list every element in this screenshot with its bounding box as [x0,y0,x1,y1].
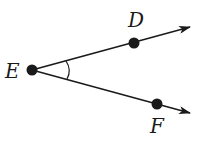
angle-diagram: E D F [0,0,209,145]
ray-ef [32,70,190,113]
label-e: E [4,59,20,83]
ray-ed [32,27,190,70]
diagram-canvas: E D F [0,0,209,145]
label-d: D [127,8,144,32]
angle-arc-marker [66,61,69,79]
label-f: F [149,114,165,138]
point-e [27,65,38,76]
point-f [152,99,163,110]
point-d [129,38,140,49]
